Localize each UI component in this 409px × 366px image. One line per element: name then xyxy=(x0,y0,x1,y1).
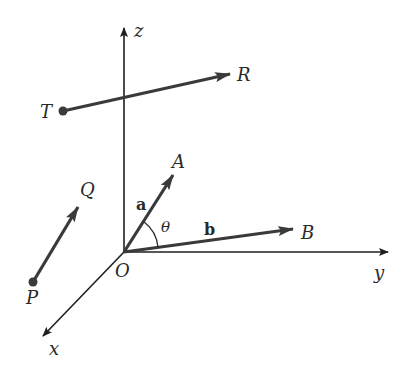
label-vector-b: b xyxy=(204,220,215,239)
angle-theta-arc xyxy=(144,222,159,248)
label-B: B xyxy=(300,222,314,243)
vector-TR xyxy=(59,74,231,116)
label-Q: Q xyxy=(80,179,95,200)
label-origin-O: O xyxy=(115,260,130,281)
label-R: R xyxy=(236,64,251,85)
label-y: y xyxy=(373,262,385,283)
label-P: P xyxy=(25,287,39,308)
label-vector-a: a xyxy=(136,195,146,214)
label-z: z xyxy=(133,20,144,41)
point-T-dot xyxy=(59,107,68,116)
vector-PQ xyxy=(29,207,79,287)
point-P-dot xyxy=(29,278,38,287)
label-A: A xyxy=(170,151,185,172)
label-x: x xyxy=(49,338,59,359)
x-axis xyxy=(43,252,124,336)
label-theta: θ xyxy=(161,218,170,236)
vector-a xyxy=(124,175,173,252)
label-T: T xyxy=(40,101,54,122)
vector-diagram: z y x O T R P Q A B a b θ xyxy=(0,0,409,366)
